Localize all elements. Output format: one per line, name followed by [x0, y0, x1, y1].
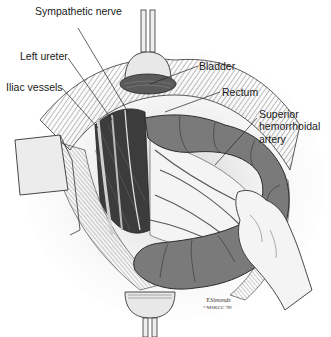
bladder-shape: [120, 74, 176, 94]
label-superior-hemorrhoidal-artery-1: Superior: [259, 108, 299, 120]
artist-signature: Y.Simonds: [206, 297, 231, 303]
label-bladder: Bladder: [199, 60, 235, 72]
label-superior-hemorrhoidal-artery-3: artery: [259, 133, 286, 145]
top-retractor: [125, 10, 171, 80]
label-iliac-vessels: Iliac vessels: [6, 81, 63, 93]
anatomical-figure: Y.Simonds ©MSKCC '99 Sympathetic nerve L…: [0, 0, 331, 337]
label-rectum: Rectum: [222, 86, 258, 98]
label-left-ureter: Left ureter: [20, 50, 68, 62]
label-superior-hemorrhoidal-artery-2: hemorrhoidal: [259, 120, 320, 132]
copyright-mark: ©MSKCC '99: [203, 305, 232, 310]
label-sympathetic-nerve: Sympathetic nerve: [35, 5, 122, 17]
left-retractor: [15, 135, 68, 195]
